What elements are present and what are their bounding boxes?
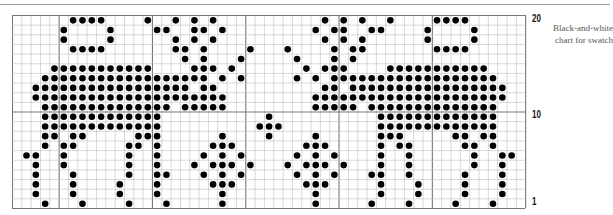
stitch-dot: [126, 123, 133, 130]
stitch-dot: [42, 142, 49, 149]
stitch-dot: [182, 85, 189, 92]
stitch-dot: [163, 27, 170, 34]
stitch-dot: [238, 152, 245, 159]
stitch-dot: [135, 133, 142, 140]
knitting-chart-grid: [12, 15, 525, 208]
stitch-dot: [107, 75, 114, 82]
stitch-dot: [98, 75, 105, 82]
stitch-dot: [387, 123, 394, 130]
stitch-dot: [462, 46, 469, 53]
stitch-dot: [359, 75, 366, 82]
stitch-dot: [322, 17, 329, 24]
stitch-dot: [172, 46, 179, 53]
stitch-dot: [322, 181, 329, 188]
stitch-dot: [452, 133, 459, 140]
stitch-dot: [312, 142, 319, 149]
stitch-dot: [434, 123, 441, 130]
stitch-dot: [424, 85, 431, 92]
stitch-dot: [396, 94, 403, 101]
stitch-dot: [322, 85, 329, 92]
stitch-dot: [322, 104, 329, 111]
stitch-dot: [42, 133, 49, 140]
stitch-dot: [238, 171, 245, 178]
stitch-dot: [490, 75, 497, 82]
stitch-dot: [415, 75, 422, 82]
stitch-dot: [322, 94, 329, 101]
stitch-dot: [490, 142, 497, 149]
stitch-dot: [79, 114, 86, 121]
stitch-dot: [434, 75, 441, 82]
stitch-dot: [462, 181, 469, 188]
stitch-dot: [144, 104, 151, 111]
stitch-dot: [424, 123, 431, 130]
stitch-dot: [462, 104, 469, 111]
stitch-dot: [387, 104, 394, 111]
stitch-dot: [452, 94, 459, 101]
stitch-dot: [415, 114, 422, 121]
stitch-dot: [200, 104, 207, 111]
stitch-dot: [79, 123, 86, 130]
stitch-dot: [154, 181, 161, 188]
stitch-dot: [471, 85, 478, 92]
stitch-dot: [107, 36, 114, 43]
stitch-dot: [378, 123, 385, 130]
stitch-dot: [126, 200, 133, 207]
stitch-dot: [434, 17, 441, 24]
stitch-dot: [70, 142, 77, 149]
stitch-dot: [387, 65, 394, 72]
stitch-dot: [452, 75, 459, 82]
stitch-dot: [154, 85, 161, 92]
stitch-dot: [210, 104, 217, 111]
stitch-dot: [406, 94, 413, 101]
stitch-dot: [210, 65, 217, 72]
stitch-dot: [406, 152, 413, 159]
stitch-dot: [172, 36, 179, 43]
stitch-dot: [33, 191, 40, 198]
stitch-dot: [359, 17, 366, 24]
stitch-dot: [116, 94, 123, 101]
stitch-dot: [471, 142, 478, 149]
stitch-dot: [107, 123, 114, 130]
stitch-dot: [98, 17, 105, 24]
stitch-dot: [284, 46, 291, 53]
stitch-dot: [126, 65, 133, 72]
stitch-dot: [331, 65, 338, 72]
stitch-dot: [490, 114, 497, 121]
stitch-dot: [61, 36, 68, 43]
stitch-dot: [452, 114, 459, 121]
stitch-dot: [70, 65, 77, 72]
stitch-dot: [368, 85, 375, 92]
stitch-dot: [415, 104, 422, 111]
stitch-dot: [70, 94, 77, 101]
stitch-dot: [322, 65, 329, 72]
stitch-dot: [331, 85, 338, 92]
stitch-dot: [471, 123, 478, 130]
stitch-dot: [191, 94, 198, 101]
stitch-dot: [462, 191, 469, 198]
stitch-dot: [443, 75, 450, 82]
stitch-dot: [452, 17, 459, 24]
stitch-dot: [443, 17, 450, 24]
stitch-dot: [107, 94, 114, 101]
stitch-dot: [480, 75, 487, 82]
stitch-dot: [172, 94, 179, 101]
stitch-dot: [499, 181, 506, 188]
stitch-dot: [61, 114, 68, 121]
stitch-dot: [294, 171, 301, 178]
stitch-dot: [154, 114, 161, 121]
stitch-dot: [172, 17, 179, 24]
stitch-dot: [135, 123, 142, 130]
stitch-dot: [135, 114, 142, 121]
stitch-dot: [350, 94, 357, 101]
stitch-dot: [210, 181, 217, 188]
stitch-dot: [312, 152, 319, 159]
stitch-dot: [200, 75, 207, 82]
stitch-dot: [471, 152, 478, 159]
stitch-dot: [51, 114, 58, 121]
stitch-dot: [443, 123, 450, 130]
stitch-dot: [303, 162, 310, 169]
stitch-dot: [387, 114, 394, 121]
stitch-dot: [471, 27, 478, 34]
stitch-dot: [200, 65, 207, 72]
stitch-dot: [70, 133, 77, 140]
